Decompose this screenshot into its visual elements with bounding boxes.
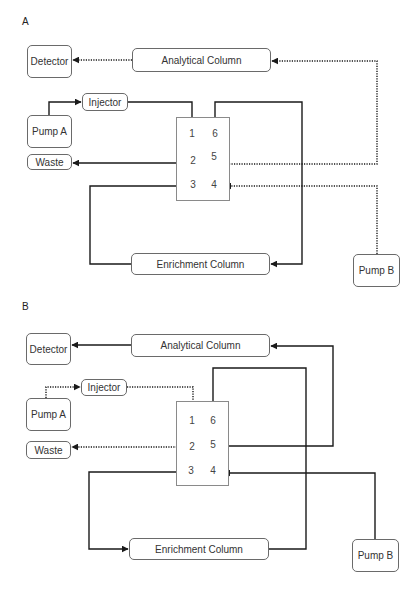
flow-pump-b-to-valve-port-4	[225, 186, 377, 254]
detector-label: Detector	[30, 344, 68, 355]
pump-a-label: Pump A	[32, 126, 67, 137]
flow-valve-port-5-to-analytical-column	[223, 346, 333, 446]
detector-box-b: Detector	[26, 333, 71, 365]
valve-port-1: 1	[189, 415, 195, 426]
valve-port-5: 5	[210, 439, 216, 450]
pump-b-box-a: Pump B	[353, 254, 400, 287]
switching-valve-a	[176, 117, 230, 201]
valve-port-4: 4	[211, 179, 217, 190]
waste-box-b: Waste	[26, 441, 71, 459]
valve-port-5: 5	[211, 151, 217, 162]
pump-b-label: Pump B	[359, 265, 395, 276]
panel-label-b: B	[22, 301, 29, 312]
valve-port-6: 6	[210, 415, 216, 426]
valve-port-3: 3	[190, 179, 196, 190]
valve-port-6: 6	[212, 128, 218, 139]
enrichment-column-box-b: Enrichment Column	[129, 538, 269, 560]
pump-a-box-a: Pump A	[27, 115, 72, 148]
diagram-stage: A Detector Analytical Column Injector Pu…	[0, 0, 420, 590]
valve-port-1: 1	[189, 128, 195, 139]
injector-box-a: Injector	[82, 93, 128, 111]
analytical-column-label: Analytical Column	[160, 340, 240, 351]
pump-b-box-b: Pump B	[352, 539, 399, 572]
valve-port-2: 2	[189, 441, 195, 452]
valve-port-2: 2	[190, 155, 196, 166]
pump-a-box-b: Pump A	[26, 398, 71, 431]
panel-label-a: A	[22, 16, 29, 27]
flow-pump-a-to-injector	[46, 387, 80, 398]
injector-label: Injector	[88, 382, 121, 393]
connection-layer	[0, 0, 420, 590]
analytical-column-box-b: Analytical Column	[131, 334, 270, 357]
valve-port-3: 3	[188, 465, 194, 476]
switching-valve-b	[176, 401, 229, 486]
waste-label: Waste	[35, 445, 63, 456]
detector-box-a: Detector	[27, 45, 72, 78]
flow-pump-a-to-injector	[49, 102, 81, 115]
pump-a-label: Pump A	[31, 409, 66, 420]
waste-label: Waste	[36, 157, 64, 168]
injector-box-b: Injector	[81, 379, 127, 396]
flow-valve-port-5-to-analytical-column	[224, 61, 377, 164]
enrichment-column-label: Enrichment Column	[157, 259, 245, 270]
enrichment-column-box-a: Enrichment Column	[131, 253, 270, 275]
flow-pump-b-to-valve-port-4	[224, 473, 375, 539]
pump-b-label: Pump B	[358, 550, 394, 561]
detector-label: Detector	[31, 56, 69, 67]
waste-box-a: Waste	[27, 154, 72, 170]
enrichment-column-label: Enrichment Column	[155, 544, 243, 555]
analytical-column-box-a: Analytical Column	[132, 48, 271, 72]
valve-port-4: 4	[210, 465, 216, 476]
injector-label: Injector	[89, 97, 122, 108]
analytical-column-label: Analytical Column	[161, 55, 241, 66]
